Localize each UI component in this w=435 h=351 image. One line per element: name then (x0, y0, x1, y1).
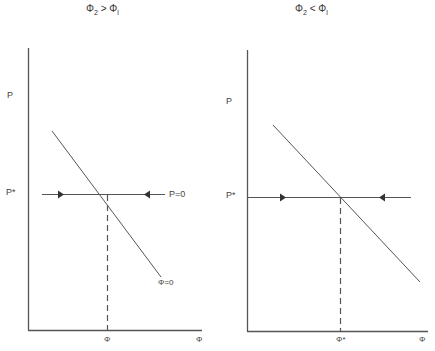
arrow-right-icon (58, 191, 64, 199)
left-phi-zero-line (52, 131, 161, 277)
title-sub: 2 (94, 9, 98, 16)
title-phi: Φ (295, 3, 303, 14)
right-phi-zero-line (273, 125, 420, 282)
right-y-axis-label: P (226, 96, 232, 106)
title-op: < (310, 3, 316, 14)
arrow-right-icon (280, 194, 286, 202)
title-op: > (101, 3, 107, 14)
title-sub: l (117, 9, 119, 16)
left-x-axis-label: Φ (196, 335, 202, 344)
title-sub: 2 (303, 9, 307, 16)
title-sub: l (326, 9, 328, 16)
left-title: Φ2 > Φl (86, 3, 119, 16)
left-y-axis-label: P (7, 90, 13, 100)
left-phi-zero-label: Φ=0 (158, 278, 174, 287)
left-y-tick: P* (6, 187, 16, 197)
arrow-left-icon (379, 194, 385, 202)
phase-diagrams (0, 0, 435, 351)
left-p-zero-label: P=0 (169, 189, 185, 199)
arrow-left-icon (144, 191, 150, 199)
right-y-tick: P* (226, 190, 236, 200)
title-phi: Φ (86, 3, 94, 14)
right-title: Φ2 < Φl (295, 3, 328, 16)
left-x-tick: Φ (104, 335, 110, 344)
right-x-tick: Φ* (336, 335, 346, 344)
right-panel (247, 50, 428, 332)
right-x-axis-label: Φ (419, 335, 425, 344)
